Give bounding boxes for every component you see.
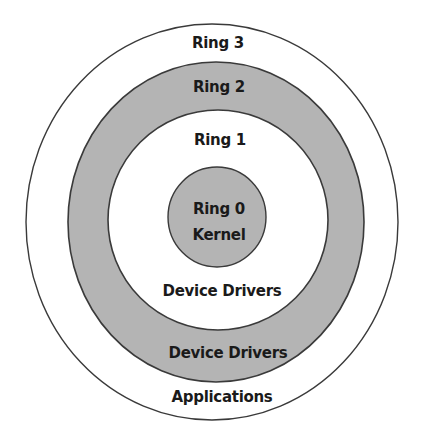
ring-2-role-label: Device Drivers	[169, 346, 288, 361]
ring-3-name-label: Ring 3	[192, 36, 244, 51]
ring-1-name-label: Ring 1	[194, 133, 246, 148]
ring-2-name-label: Ring 2	[193, 80, 245, 95]
ring-0-role-label: Kernel	[192, 228, 245, 243]
ring-1-role-label: Device Drivers	[163, 284, 282, 299]
ring-3-role-label: Applications	[171, 390, 272, 405]
ring-0-name-label: Ring 0	[193, 202, 245, 217]
